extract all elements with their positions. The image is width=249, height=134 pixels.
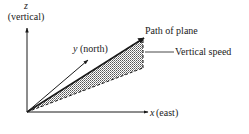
- path-of-plane-label: Path of plane: [145, 25, 198, 36]
- y-axis-symbol: y: [72, 43, 78, 54]
- vertical-speed-label: Vertical speed: [175, 46, 231, 57]
- x-axis-description: (east): [156, 107, 178, 119]
- x-axis-symbol: x: [149, 107, 155, 118]
- y-axis-description: (north): [80, 43, 108, 55]
- plane-velocity-diagram: z (vertical) y (north) x (east) Path of …: [0, 0, 249, 134]
- z-axis-description: (vertical): [8, 11, 45, 23]
- z-axis-symbol: z: [23, 0, 28, 11]
- diagram-svg: z (vertical) y (north) x (east) Path of …: [0, 0, 249, 134]
